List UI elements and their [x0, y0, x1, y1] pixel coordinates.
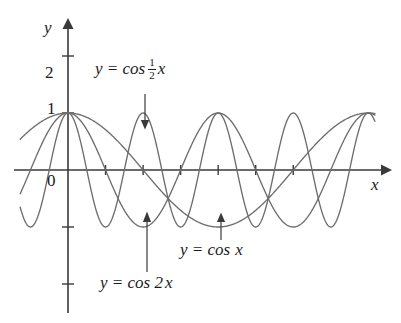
- annotation-cos-2x-var: x: [165, 273, 173, 292]
- y-tick-label-1: 1: [47, 100, 56, 117]
- x-axis-arrow-icon: [381, 165, 392, 176]
- plot-canvas: [0, 0, 401, 323]
- y-axis-arrow-icon: [63, 18, 74, 29]
- annotation-cos-half-x-text: y = cos: [95, 59, 145, 78]
- annotation-cos-2x: y = cos 2x: [100, 274, 172, 291]
- y-tick-label-2: 2: [45, 64, 54, 81]
- fraction-one-half: 12: [148, 57, 156, 81]
- y-axis-label: y: [44, 19, 52, 36]
- axes: [14, 18, 392, 313]
- fraction-denominator: 2: [148, 70, 156, 82]
- annotation-cos-half-x-var: x: [158, 59, 166, 78]
- annotation-cos-x: y = cosx: [180, 241, 243, 258]
- annotation-cos-half-x: y = cos12x: [95, 58, 165, 82]
- x-axis-label: x: [371, 176, 379, 193]
- annotation-cos-x-text: y = cos: [180, 240, 230, 259]
- fraction-numerator: 1: [148, 57, 156, 70]
- annotation-cos-2x-text: y = cos 2: [100, 273, 163, 292]
- cosine-graph-figure: y x 0 2 1 y = cos12x y = cosx y = cos 2x: [0, 0, 401, 323]
- origin-label: 0: [47, 172, 56, 189]
- annotation-cos-x-var: x: [235, 240, 243, 259]
- arrow-to-cos-2x-icon: [143, 212, 151, 273]
- arrow-to-cos-half-x-icon: [141, 94, 149, 130]
